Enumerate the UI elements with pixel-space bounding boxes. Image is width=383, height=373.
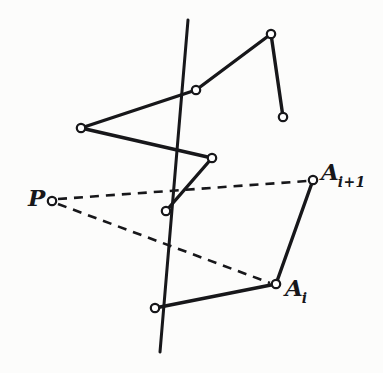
vertex-marker-v4 [279,113,287,121]
vertex-marker-v1 [77,124,85,132]
point-label-ai-plus-1-base: A [321,158,339,185]
point-label-ai-plus-1: Ai+1 [321,160,367,183]
diagram-canvas [0,0,383,373]
point-label-ai-plus-1-subscript: i+1 [338,174,366,190]
point-label-p: P [28,186,45,209]
geometric-diagram-figure: P Ai Ai+1 [0,0,383,373]
vertex-marker-v2 [192,86,200,94]
vertex-marker-ai-plus-1 [309,176,317,184]
point-label-ai-base: A [285,274,303,301]
point-label-ai-subscript: i [302,290,308,306]
vertex-marker-p [48,197,56,205]
vertex-marker-v5 [208,154,216,162]
vertex-marker-v6 [162,207,170,215]
point-label-p-base: P [28,184,45,211]
vertex-marker-ai [272,280,280,288]
point-label-ai: Ai [285,276,308,299]
vertex-marker-v7 [151,304,159,312]
vertex-marker-v3 [267,30,275,38]
